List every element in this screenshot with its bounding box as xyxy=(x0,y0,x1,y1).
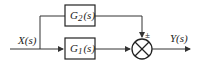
block-g2: G2(s) xyxy=(65,5,95,26)
output-label: Y(s) xyxy=(170,32,188,45)
sum-sign: ± xyxy=(145,30,150,40)
block-diagram: G2(s) G1(s) ± X(s) Y(s) xyxy=(0,0,201,69)
svg-text:G1(s): G1(s) xyxy=(70,42,95,56)
input-label: X(s) xyxy=(17,34,37,47)
g2-to-sum-line xyxy=(95,16,142,37)
branch-line xyxy=(40,16,65,49)
summing-junction xyxy=(132,39,152,59)
block-g1: G1(s) xyxy=(65,38,95,59)
svg-text:G2(s): G2(s) xyxy=(70,9,95,23)
